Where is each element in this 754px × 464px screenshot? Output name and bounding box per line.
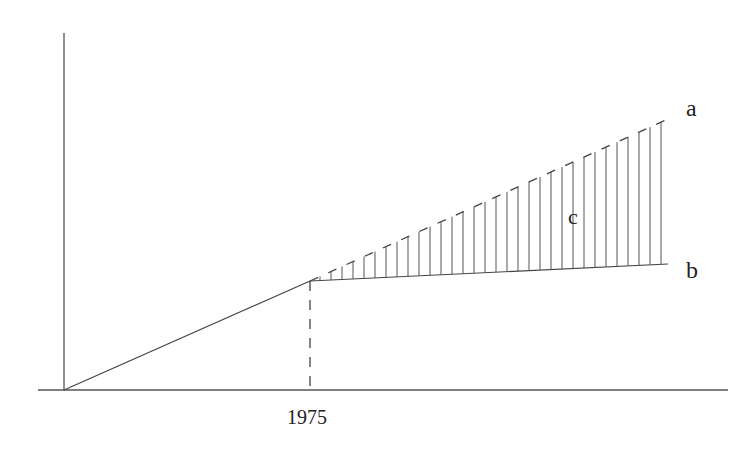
- label-c: c: [568, 206, 578, 228]
- label-a: a: [686, 96, 697, 120]
- label-b: b: [686, 258, 698, 282]
- trend-line-pre-1975: [64, 281, 310, 390]
- x-marker-label-1975: 1975: [287, 407, 327, 427]
- diagram-canvas: [0, 0, 754, 464]
